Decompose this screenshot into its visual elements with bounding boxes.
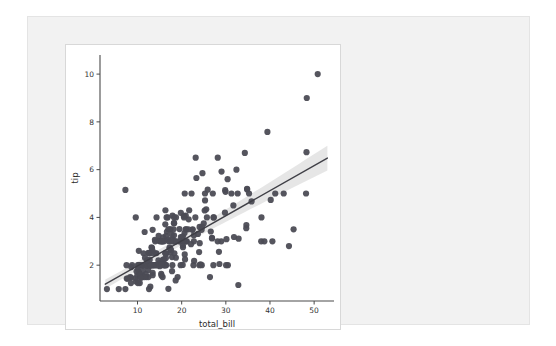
scatter-point	[223, 236, 229, 242]
scatter-point	[170, 226, 176, 232]
scatter-point	[242, 150, 248, 156]
scatter-point	[135, 280, 141, 286]
scatter-point	[215, 155, 221, 161]
scatter-point	[228, 190, 234, 196]
y-tick-label: 2	[89, 261, 94, 270]
scatter-point	[199, 170, 205, 176]
scatter-point	[171, 232, 177, 238]
y-axis-ticks: 246810	[84, 70, 100, 270]
scatter-point	[211, 214, 217, 220]
scatter-point	[216, 261, 222, 267]
x-tick-label: 30	[221, 306, 231, 315]
scatter-point	[182, 256, 188, 262]
scatter-point	[122, 286, 128, 292]
scatter-point	[304, 95, 310, 101]
scatter-point	[233, 167, 239, 173]
scatter-point	[261, 238, 267, 244]
scatter-point	[152, 238, 158, 244]
scatter-point	[138, 275, 144, 281]
scatter-point	[264, 129, 270, 135]
scatter-point	[163, 214, 169, 220]
scatter-point	[303, 190, 309, 196]
scatter-point	[193, 175, 199, 181]
scatter-point	[190, 262, 196, 268]
scatter-point	[173, 255, 179, 261]
x-tick-label: 50	[309, 306, 319, 315]
scatter-point	[235, 190, 241, 196]
scatter-point	[193, 155, 199, 161]
y-tick-label: 10	[84, 70, 94, 79]
scatter-point	[303, 149, 309, 155]
scatter-point	[236, 236, 242, 242]
scatter-point	[201, 220, 207, 226]
scatter-point	[124, 275, 130, 281]
scatter-point	[204, 214, 210, 220]
scatter-point	[153, 214, 159, 220]
scatter-point	[173, 277, 179, 283]
scatter-point	[210, 190, 216, 196]
scatter-point	[169, 268, 175, 274]
scatter-point	[218, 168, 224, 174]
x-tick-label: 40	[265, 306, 275, 315]
scatter-point	[104, 286, 110, 292]
scatter-point	[188, 241, 194, 247]
figure-card: 246810 1020304050 total_bill tip	[65, 44, 341, 330]
scatter-point	[209, 235, 215, 241]
scatter-point	[122, 187, 128, 193]
scatter-point	[171, 220, 177, 226]
scatter-point	[159, 262, 165, 268]
x-tick-label: 10	[133, 306, 143, 315]
scatter-point	[216, 249, 222, 255]
x-axis-ticks: 1020304050	[133, 301, 319, 315]
scatter-point	[272, 190, 278, 196]
scatter-point	[269, 238, 275, 244]
scatter-point	[182, 190, 188, 196]
scatter-point	[142, 229, 148, 235]
scatter-point	[202, 197, 208, 203]
y-axis-label: tip	[70, 172, 80, 183]
scatter-point	[281, 190, 287, 196]
x-axis-label: total_bill	[199, 319, 235, 329]
scatter-point	[215, 238, 221, 244]
scatter-point	[230, 202, 236, 208]
scatter-point	[244, 186, 250, 192]
scatter-point	[116, 286, 122, 292]
scatter-point	[168, 238, 174, 244]
scatter-point	[133, 214, 139, 220]
scatter-point	[205, 187, 211, 193]
scatter-point	[163, 233, 169, 239]
scatter-point	[178, 262, 184, 268]
scatter-point	[186, 207, 192, 213]
scatter-point	[235, 282, 241, 288]
scatter-point	[159, 238, 165, 244]
scatter-point	[165, 286, 171, 292]
scatter-point	[202, 207, 208, 213]
scatter-point	[150, 227, 156, 233]
scatter-point	[225, 176, 231, 182]
scatter-point	[315, 71, 321, 77]
scatter-point	[197, 240, 203, 246]
scatter-point	[291, 226, 297, 232]
scatter-point	[223, 262, 229, 268]
scatter-point	[149, 245, 155, 251]
y-tick-label: 8	[89, 118, 94, 127]
scatter-point	[173, 214, 179, 220]
scatter-point	[196, 262, 202, 268]
scatter-point	[181, 214, 187, 220]
y-tick-label: 6	[89, 165, 94, 174]
scatter-point	[196, 249, 202, 255]
scatter-point	[188, 190, 194, 196]
scatter-point	[268, 197, 274, 203]
scatter-point	[243, 222, 249, 228]
scatter-point	[146, 286, 152, 292]
scatter-point	[222, 187, 228, 193]
scatter-point	[150, 272, 156, 278]
scatter-point	[160, 274, 166, 280]
scatter-point	[258, 214, 264, 220]
y-tick-label: 4	[89, 213, 94, 222]
screenshot-root: 246810 1020304050 total_bill tip	[0, 0, 556, 346]
scatter-point	[162, 207, 168, 213]
scatter-point	[286, 243, 292, 249]
scatter-point	[210, 262, 216, 268]
regression-plot: 246810 1020304050 total_bill tip	[66, 45, 342, 331]
